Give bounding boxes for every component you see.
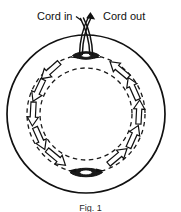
flow-arrow [105, 144, 131, 168]
cord-in-label: Cord in [37, 10, 72, 22]
bottom-eyelet [68, 168, 106, 177]
cord-out-label: Cord out [103, 10, 145, 22]
flow-arrow [28, 77, 48, 103]
flow-arrow [123, 123, 143, 149]
flow-arrow [30, 125, 50, 151]
channel-inner-dashed-ring [40, 68, 132, 160]
bottom-eyelet-hole [80, 170, 92, 175]
flow-arrow-group [27, 57, 146, 169]
flow-arrow [106, 57, 132, 81]
figure-caption: Fig. 1 [0, 203, 181, 212]
top-eyelet [73, 52, 100, 60]
flow-arrow [43, 146, 69, 170]
tire-cord-path-diagram [0, 0, 181, 212]
flow-arrow [27, 102, 39, 127]
figure-container: Cord in Cord out Fig. 1 [0, 0, 181, 212]
cord-out-arrowhead [86, 12, 95, 20]
